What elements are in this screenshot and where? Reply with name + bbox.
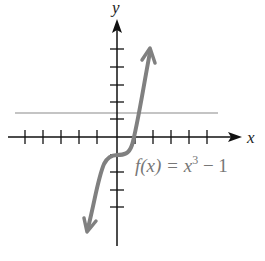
y-axis-label: y	[110, 0, 120, 17]
x-axis-label: x	[246, 128, 255, 147]
function-label: f(x) = x3 − 1	[135, 153, 228, 177]
graph-figure: y x f(x) = x3 − 1	[0, 0, 265, 261]
cubic-graph: y x f(x) = x3 − 1	[0, 0, 265, 261]
